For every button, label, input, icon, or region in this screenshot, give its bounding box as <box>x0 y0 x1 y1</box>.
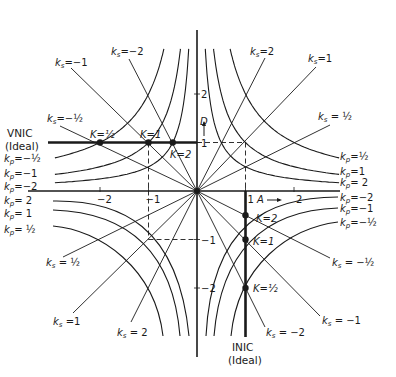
k-point <box>242 236 248 242</box>
axes: −2−11221−1−2 <box>28 30 340 357</box>
ks-label: ks = ½ <box>318 111 352 124</box>
d-axis-label: D <box>200 116 208 127</box>
plot-canvas: kp=½kp=1kp= 2kp=−½kp=−1kp=−2kp= 2kp= 1kp… <box>0 0 396 377</box>
kp-label: kp= 2 <box>340 177 368 190</box>
inic-label: INIC <box>232 341 253 353</box>
kp-label: kp= 2 <box>4 195 32 208</box>
ks-ray <box>131 191 197 322</box>
x-tick-label: 1 <box>248 194 254 205</box>
ks-label: ks=1 <box>308 53 332 66</box>
k-point <box>170 139 176 145</box>
kp-curve <box>230 49 339 158</box>
ks-label: ks=−2 <box>111 46 144 59</box>
ks-ray <box>63 191 197 257</box>
y-tick-label: 2 <box>201 89 207 100</box>
vnic-ideal-label: (Ideal) <box>5 140 39 152</box>
k-point-label: K=1 <box>140 129 161 140</box>
inic-ideal-label: (Ideal) <box>228 354 262 366</box>
k-point-label: K=2 <box>256 213 277 224</box>
k-point <box>145 139 151 145</box>
kp-label: kp=½ <box>340 151 369 164</box>
ks-label: ks = ½ <box>46 257 80 270</box>
ks-label: ks = −½ <box>332 257 375 270</box>
kp-curves: kp=½kp=1kp= 2kp=−½kp=−1kp=−2kp= 2kp= 1kp… <box>4 49 377 336</box>
kp-label: kp=−1 <box>4 168 37 181</box>
k-point-label: K=1 <box>253 236 274 247</box>
ks-label: ks=−½ <box>47 113 83 126</box>
a-axis-label: A <box>256 194 264 205</box>
k-point-label: K=2 <box>170 149 191 160</box>
k-point-label: K=½ <box>253 283 278 294</box>
kp-label: kp=−1 <box>340 203 373 216</box>
ks-ray <box>197 125 330 191</box>
k-point <box>242 285 248 291</box>
kp-label: kp=−2 <box>4 181 37 194</box>
kp-label: kp= ½ <box>4 224 36 237</box>
kp-label: kp=−½ <box>340 217 377 230</box>
ks-ray <box>197 67 316 191</box>
x-tick-label: 2 <box>296 194 302 205</box>
x-tick-label: −1 <box>146 194 161 205</box>
y-tick-label: 1 <box>201 138 207 149</box>
ks-label: ks = −1 <box>322 315 361 328</box>
ks-label: ks = −2 <box>266 327 305 340</box>
y-tick-label: −2 <box>201 283 216 294</box>
a-arrow-head-icon <box>277 198 282 202</box>
ks-label: ks = 2 <box>117 327 148 340</box>
k-point-label: K=½ <box>90 129 115 140</box>
origin-point <box>194 188 200 194</box>
ks-ray <box>73 191 197 313</box>
kp-label: kp=−½ <box>4 153 41 166</box>
k-point <box>242 212 248 218</box>
ks-label: ks=2 <box>250 46 274 59</box>
x-tick-label: −2 <box>97 194 112 205</box>
k-point <box>97 139 103 145</box>
y-tick-label: −1 <box>201 235 216 246</box>
kp-label: kp= 1 <box>4 208 32 221</box>
ks-ray <box>197 191 265 327</box>
vnic-label: VNIC <box>7 127 32 139</box>
k-factor-diagram: kp=½kp=1kp= 2kp=−½kp=−1kp=−2kp= 2kp= 1kp… <box>0 0 396 377</box>
ks-label: ks =1 <box>53 316 80 329</box>
ks-rays: ks=2ks=1ks = ½ks=−1ks=−2ks=−½ks = ½ks =1… <box>46 46 375 340</box>
ks-ray <box>197 191 320 316</box>
